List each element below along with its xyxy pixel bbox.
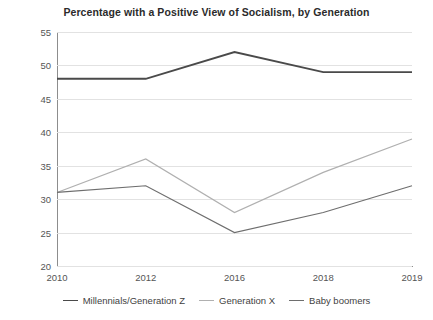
legend-label: Baby boomers <box>309 296 370 306</box>
gridline <box>57 266 412 267</box>
legend-line-icon <box>199 300 214 301</box>
x-axis-tick-label: 2018 <box>293 272 353 283</box>
y-axis-tick-label: 30 <box>7 194 51 205</box>
y-axis-tick-label: 25 <box>7 227 51 238</box>
series-lines <box>57 32 412 266</box>
legend-item[interactable]: Baby boomers <box>289 296 370 306</box>
x-axis-tick-label: 2012 <box>116 272 176 283</box>
legend-line-icon <box>63 300 78 301</box>
legend-label: Generation X <box>219 296 275 306</box>
y-axis-tick-label: 35 <box>7 160 51 171</box>
legend-item[interactable]: Millennials/Generation Z <box>63 296 185 306</box>
series-line <box>57 186 412 233</box>
y-axis-tick-label: 40 <box>7 127 51 138</box>
chart-title: Percentage with a Positive View of Socia… <box>0 6 433 18</box>
legend-item[interactable]: Generation X <box>199 296 275 306</box>
legend-label: Millennials/Generation Z <box>83 296 185 306</box>
legend-line-icon <box>289 300 304 301</box>
x-axis-tick-label: 2019 <box>382 272 433 283</box>
y-axis-tick-label: 55 <box>7 27 51 38</box>
plot-area <box>57 32 412 266</box>
series-line <box>57 52 412 79</box>
x-axis-tick-label: 2010 <box>27 272 87 283</box>
y-axis-tick-label: 50 <box>7 60 51 71</box>
y-axis-tick-label: 45 <box>7 93 51 104</box>
x-axis-tick-label: 2016 <box>205 272 265 283</box>
chart-legend: Millennials/Generation ZGeneration XBaby… <box>0 296 433 306</box>
y-axis-tick-labels: 5550454035302520 <box>0 32 51 266</box>
y-axis-tick-label: 20 <box>7 261 51 272</box>
chart-container: Percentage with a Positive View of Socia… <box>0 0 433 320</box>
